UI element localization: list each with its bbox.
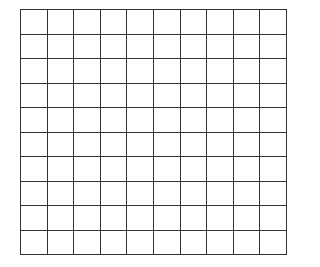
grid-row <box>21 34 287 59</box>
grid-cell <box>260 181 287 206</box>
grid-cell <box>21 108 48 133</box>
grid-cell <box>74 206 101 231</box>
grid-cell <box>180 132 207 157</box>
grid-cell <box>47 206 74 231</box>
grid-cell <box>100 59 127 84</box>
grid-cell <box>127 206 154 231</box>
grid-cell <box>233 108 260 133</box>
grid-cell <box>74 181 101 206</box>
grid-cell <box>74 230 101 255</box>
grid-row <box>21 206 287 231</box>
grid-cell <box>207 10 234 35</box>
grid-cell <box>100 10 127 35</box>
grid-cell <box>153 230 180 255</box>
grid-row <box>21 157 287 182</box>
grid-row <box>21 108 287 133</box>
grid-cell <box>260 206 287 231</box>
grid-cell <box>47 83 74 108</box>
grid-cell <box>127 157 154 182</box>
grid-cell <box>207 206 234 231</box>
grid-cell <box>260 157 287 182</box>
grid-cell <box>233 34 260 59</box>
grid-cell <box>127 230 154 255</box>
grid-cell <box>21 83 48 108</box>
grid-cell <box>153 108 180 133</box>
grid-row <box>21 83 287 108</box>
grid-cell <box>47 34 74 59</box>
grid-cell <box>100 181 127 206</box>
grid-cell <box>47 132 74 157</box>
grid-cell <box>233 10 260 35</box>
grid-cell <box>127 59 154 84</box>
grid-cell <box>153 34 180 59</box>
grid-cell <box>127 108 154 133</box>
grid-cell <box>74 108 101 133</box>
grid-cell <box>100 108 127 133</box>
grid-cell <box>180 108 207 133</box>
grid-cell <box>47 59 74 84</box>
grid-cell <box>233 83 260 108</box>
grid-row <box>21 10 287 35</box>
grid-cell <box>74 157 101 182</box>
grid-cell <box>74 59 101 84</box>
grid-cell <box>47 157 74 182</box>
grid-cell <box>207 157 234 182</box>
grid-cell <box>74 83 101 108</box>
grid-cell <box>260 83 287 108</box>
grid-cell <box>100 206 127 231</box>
grid-cell <box>74 34 101 59</box>
grid-cell <box>153 206 180 231</box>
grid-cell <box>207 181 234 206</box>
grid-row <box>21 181 287 206</box>
grid-cell <box>127 181 154 206</box>
grid-cell <box>233 132 260 157</box>
grid-cell <box>260 10 287 35</box>
grid-cell <box>74 10 101 35</box>
grid-cell <box>21 206 48 231</box>
grid-cell <box>260 34 287 59</box>
grid-cell <box>153 83 180 108</box>
grid-cell <box>180 230 207 255</box>
grid-cell <box>260 132 287 157</box>
grid-cell <box>100 132 127 157</box>
grid-cell <box>127 34 154 59</box>
grid-cell <box>100 34 127 59</box>
grid-cell <box>21 34 48 59</box>
grid-cell <box>180 206 207 231</box>
grid-cell <box>100 157 127 182</box>
grid-cell <box>21 157 48 182</box>
grid-cell <box>127 83 154 108</box>
grid-cell <box>180 181 207 206</box>
grid-cell <box>233 181 260 206</box>
grid-cell <box>260 59 287 84</box>
grid-cell <box>180 59 207 84</box>
grid-cell <box>207 230 234 255</box>
grid-body <box>21 10 287 255</box>
grid-row <box>21 59 287 84</box>
grid-cell <box>153 157 180 182</box>
grid-cell <box>180 157 207 182</box>
grid-cell <box>74 132 101 157</box>
grid-cell <box>260 108 287 133</box>
grid-cell <box>21 181 48 206</box>
grid-cell <box>207 59 234 84</box>
grid-cell <box>153 181 180 206</box>
grid-cell <box>153 10 180 35</box>
grid-cell <box>47 108 74 133</box>
grid-cell <box>233 230 260 255</box>
grid-cell <box>153 132 180 157</box>
grid-cell <box>127 10 154 35</box>
grid-cell <box>233 59 260 84</box>
grid-cell <box>47 181 74 206</box>
grid-cell <box>21 59 48 84</box>
grid-cell <box>207 108 234 133</box>
grid-cell <box>100 230 127 255</box>
grid-cell <box>153 59 180 84</box>
grid-cell <box>207 34 234 59</box>
grid-cell <box>207 132 234 157</box>
grid-cell <box>180 34 207 59</box>
grid-cell <box>21 132 48 157</box>
grid-cell <box>233 206 260 231</box>
grid-cell <box>180 83 207 108</box>
empty-grid <box>20 9 287 255</box>
